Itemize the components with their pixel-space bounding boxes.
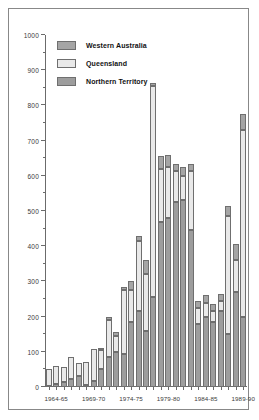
bar-segment xyxy=(128,281,134,290)
bar xyxy=(53,366,59,387)
bar-segment xyxy=(106,317,112,320)
y-axis-tick-minor xyxy=(43,368,45,369)
y-axis-tick-minor xyxy=(43,52,45,53)
x-axis-tick xyxy=(191,387,192,390)
bar xyxy=(173,163,179,387)
bar-segment xyxy=(68,357,74,379)
x-axis-tick xyxy=(56,387,57,390)
bar-segment xyxy=(113,352,119,387)
bar-segment xyxy=(68,379,74,387)
y-axis-tick-minor xyxy=(43,192,45,193)
y-axis-label: 700 xyxy=(28,137,39,144)
bar xyxy=(106,317,112,387)
y-axis-tick-major xyxy=(41,69,45,70)
bar-segment xyxy=(143,274,149,330)
bar-segment xyxy=(218,301,224,312)
x-axis-tick xyxy=(153,387,154,390)
bar-segment xyxy=(165,155,171,167)
x-axis-label: 1974-75 xyxy=(119,395,142,402)
x-axis-tick xyxy=(71,387,72,390)
legend-label: Western Australia xyxy=(86,42,147,49)
bar-segment xyxy=(150,83,156,86)
bar-segment xyxy=(113,336,119,352)
bar-segment xyxy=(61,367,67,382)
bar-segment xyxy=(188,164,194,171)
legend-label: Northern Territory xyxy=(86,78,148,85)
bar-segment xyxy=(180,167,186,176)
y-axis-tick-major xyxy=(41,140,45,141)
bar-segment xyxy=(98,350,104,369)
y-axis-label: 1000 xyxy=(24,32,39,39)
bar xyxy=(158,156,164,387)
x-axis-tick xyxy=(206,387,207,390)
y-axis-tick-major xyxy=(41,210,45,211)
bar-segment xyxy=(106,320,112,357)
y-axis-tick-major xyxy=(41,351,45,352)
x-axis-tick xyxy=(161,387,162,390)
y-axis-label: 0 xyxy=(35,384,39,391)
y-axis-tick-major xyxy=(41,316,45,317)
y-axis-label: 400 xyxy=(28,243,39,250)
bar xyxy=(46,369,52,387)
x-axis-tick xyxy=(183,387,184,390)
x-axis-tick xyxy=(124,387,125,390)
legend-swatch xyxy=(57,77,76,86)
y-axis-label: 100 xyxy=(28,348,39,355)
x-axis-tick xyxy=(236,387,237,390)
bar-segment xyxy=(76,376,82,387)
bar-segment xyxy=(173,202,179,387)
bar-segment xyxy=(143,260,149,274)
bar xyxy=(121,287,127,387)
y-axis-label: 300 xyxy=(28,278,39,285)
x-axis-label: 1969-70 xyxy=(82,395,105,402)
bar-segment xyxy=(106,357,112,387)
bar-segment xyxy=(180,200,186,387)
bar xyxy=(180,167,186,387)
y-axis-label: 600 xyxy=(28,172,39,179)
bar xyxy=(165,155,171,387)
bar-segment xyxy=(210,322,216,387)
bar xyxy=(83,362,89,387)
x-axis-tick xyxy=(79,387,80,390)
bar-segment xyxy=(195,324,201,387)
y-axis-label: 800 xyxy=(28,102,39,109)
x-axis-tick xyxy=(243,387,244,390)
x-axis-label: 1989-90 xyxy=(232,395,255,402)
bar-segment xyxy=(76,363,82,376)
bar xyxy=(195,301,201,387)
x-axis-tick xyxy=(116,387,117,390)
x-axis-tick xyxy=(168,387,169,390)
bar-segment xyxy=(165,167,171,218)
legend-item: Western Australia xyxy=(57,39,148,52)
y-axis-label: 900 xyxy=(28,67,39,74)
bar xyxy=(240,114,246,387)
x-axis-tick xyxy=(221,387,222,390)
bar xyxy=(98,349,104,387)
bar xyxy=(218,294,224,387)
bar-segment xyxy=(46,369,52,386)
legend-label: Queensland xyxy=(86,60,127,67)
bar xyxy=(225,206,231,387)
bar-segment xyxy=(233,244,239,260)
bar-segment xyxy=(136,311,142,387)
bar-segment xyxy=(210,311,216,322)
bar-segment xyxy=(210,304,216,311)
x-axis-tick xyxy=(139,387,140,390)
bar xyxy=(188,163,194,387)
bar xyxy=(150,83,156,387)
bar-segment xyxy=(218,294,224,300)
y-axis-tick-major xyxy=(41,175,45,176)
y-axis-tick-minor xyxy=(43,298,45,299)
bar-segment xyxy=(150,86,156,297)
x-axis-tick xyxy=(213,387,214,390)
bar-segment xyxy=(121,290,127,353)
bar-segment xyxy=(91,381,97,387)
bar-segment xyxy=(225,216,231,334)
bar xyxy=(136,236,142,387)
bar-segment xyxy=(158,169,164,222)
legend-swatch xyxy=(57,41,76,50)
bar xyxy=(76,363,82,387)
x-axis-label: 1964-65 xyxy=(45,395,68,402)
y-axis-tick-minor xyxy=(43,157,45,158)
bar-segment xyxy=(121,287,127,291)
